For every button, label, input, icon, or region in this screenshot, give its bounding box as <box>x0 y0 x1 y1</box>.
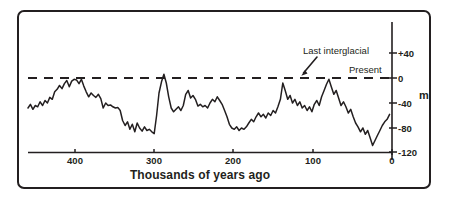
y-tick-label-minus40: -40 <box>398 98 412 109</box>
x-tick-label-100: 100 <box>305 155 321 166</box>
y-tick-label-plus40: +40 <box>398 48 414 59</box>
x-tick-label-0: 0 <box>389 155 394 166</box>
annotation-last-interglacial: Last interglacial <box>303 45 369 56</box>
x-tick-label-300: 300 <box>146 155 162 166</box>
x-tick-label-200: 200 <box>225 155 241 166</box>
y-tick-label-minus80: -80 <box>398 123 412 134</box>
y-tick-label-minus120: -120 <box>398 147 417 158</box>
y-tick-label-0: 0 <box>398 73 403 84</box>
x-tick-label-400: 400 <box>67 155 83 166</box>
last-interglacial-arrow-icon <box>301 57 317 76</box>
annotation-present: Present <box>349 64 382 75</box>
x-axis-title: Thousands of years ago <box>0 168 400 182</box>
sea-level-curve <box>28 74 390 145</box>
sea-level-chart-figure: 400 300 200 100 0 +40 0 -40 -80 -120 m T… <box>0 0 453 203</box>
y-axis-ticks <box>389 53 397 152</box>
y-axis-unit-label: m <box>419 89 429 101</box>
